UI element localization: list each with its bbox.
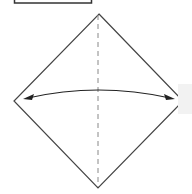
side-panel-fragment bbox=[178, 84, 192, 114]
step-label-box bbox=[15, 0, 92, 3]
diagram-canvas bbox=[0, 0, 192, 194]
